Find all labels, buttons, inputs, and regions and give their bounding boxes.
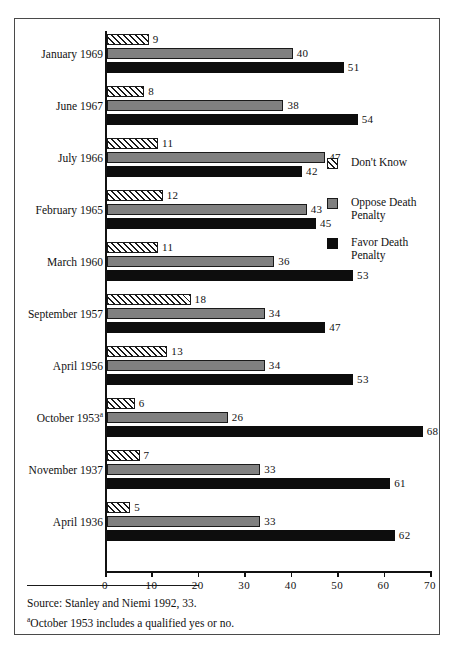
bar-oppose	[107, 464, 260, 475]
bar-value-label: 6	[139, 397, 145, 409]
source-note: Source: Stanley and Niemi 1992, 33.	[27, 597, 197, 609]
legend-item-label: Favor DeathPenalty	[351, 236, 443, 262]
legend-item: Favor DeathPenalty	[327, 238, 441, 272]
x-tick-label: 30	[238, 579, 250, 591]
bar-oppose	[107, 360, 265, 371]
bar-value-label: 11	[162, 137, 173, 149]
x-tick-mark	[151, 571, 153, 577]
bar-dk	[107, 138, 158, 149]
bar-oppose	[107, 48, 293, 59]
footnote-note: aOctober 1953 includes a qualified yes o…	[27, 617, 234, 629]
category-label: April 1936	[53, 516, 103, 529]
note-separator-rule	[27, 585, 199, 586]
bar-value-label: 40	[297, 47, 309, 59]
bar-oppose	[107, 256, 274, 267]
x-tick-mark	[291, 571, 293, 577]
bar-value-label: 33	[264, 463, 276, 475]
bar-dk	[107, 502, 130, 513]
category-label: June 1967	[56, 100, 103, 113]
bar-value-label: 34	[269, 359, 281, 371]
bar-dk	[107, 34, 149, 45]
bar-value-label: 18	[195, 293, 207, 305]
category-footnote-marker: a	[100, 410, 103, 419]
bar-favor	[107, 114, 358, 125]
bar-group: October 1953a62668	[15, 395, 441, 447]
bar-group: November 193773361	[15, 447, 441, 499]
bar-dk	[107, 86, 144, 97]
category-label: November 1937	[29, 464, 103, 477]
bar-dk	[107, 450, 140, 461]
bar-value-label: 11	[162, 241, 173, 253]
bar-favor	[107, 426, 423, 437]
footnote-text: October 1953 includes a qualified yes or…	[30, 617, 234, 629]
bar-group: June 196783854	[15, 83, 441, 135]
oppose-swatch	[327, 198, 338, 209]
bar-favor	[107, 530, 395, 541]
figure-frame: 010203040506070 January 196994051June 19…	[14, 18, 440, 635]
x-tick-label: 40	[285, 579, 297, 591]
x-tick-label: 60	[378, 579, 390, 591]
bar-favor	[107, 270, 353, 281]
bar-oppose	[107, 152, 325, 163]
x-tick-mark	[105, 571, 107, 577]
bar-value-label: 54	[362, 113, 374, 125]
bar-dk	[107, 398, 135, 409]
x-tick-mark	[384, 571, 386, 577]
x-tick-label: 70	[424, 579, 436, 591]
legend-item-label: Oppose DeathPenalty	[351, 196, 443, 222]
legend-item: Oppose DeathPenalty	[327, 198, 441, 232]
bar-value-label: 36	[278, 255, 290, 267]
category-label: October 1953a	[37, 412, 103, 425]
bar-oppose	[107, 100, 283, 111]
category-label: February 1965	[36, 204, 103, 217]
bar-value-label: 61	[394, 477, 406, 489]
bar-value-label: 47	[329, 321, 341, 333]
bar-oppose	[107, 308, 265, 319]
x-tick-mark	[337, 571, 339, 577]
category-label: March 1960	[47, 256, 103, 269]
bar-value-label: 34	[269, 307, 281, 319]
x-tick-mark	[244, 571, 246, 577]
bar-favor	[107, 218, 316, 229]
bar-value-label: 51	[348, 61, 360, 73]
chart-plot-area: 010203040506070 January 196994051June 19…	[15, 19, 441, 564]
favor-swatch	[327, 238, 338, 249]
bar-favor	[107, 478, 390, 489]
bar-value-label: 62	[399, 529, 411, 541]
bar-value-label: 68	[427, 425, 439, 437]
bar-value-label: 53	[357, 373, 369, 385]
category-label: April 1956	[53, 360, 103, 373]
bar-group: September 1957183447	[15, 291, 441, 343]
bar-value-label: 13	[171, 345, 183, 357]
dont-know-swatch	[327, 158, 338, 169]
x-tick-mark	[430, 571, 432, 577]
bar-value-label: 33	[264, 515, 276, 527]
bar-value-label: 5	[134, 501, 140, 513]
bar-value-label: 42	[306, 165, 318, 177]
bar-oppose	[107, 516, 260, 527]
bar-group: April 1956133453	[15, 343, 441, 395]
bar-value-label: 38	[287, 99, 299, 111]
legend-item: Don't Know	[327, 158, 441, 192]
bar-dk	[107, 190, 163, 201]
bar-oppose	[107, 204, 307, 215]
legend-item-label: Don't Know	[351, 156, 443, 169]
x-tick-mark	[198, 571, 200, 577]
bar-oppose	[107, 412, 228, 423]
bar-favor	[107, 166, 302, 177]
bar-favor	[107, 322, 325, 333]
bar-favor	[107, 374, 353, 385]
bar-dk	[107, 294, 191, 305]
category-label: July 1966	[58, 152, 103, 165]
bar-value-label: 7	[144, 449, 150, 461]
bar-value-label: 8	[148, 85, 154, 97]
bar-value-label: 43	[311, 203, 323, 215]
x-tick-label: 50	[331, 579, 343, 591]
bar-dk	[107, 346, 167, 357]
bar-value-label: 9	[153, 33, 159, 45]
bar-favor	[107, 62, 344, 73]
bar-value-label: 26	[232, 411, 244, 423]
category-label: September 1957	[28, 308, 103, 321]
bar-dk	[107, 242, 158, 253]
bar-value-label: 12	[167, 189, 179, 201]
